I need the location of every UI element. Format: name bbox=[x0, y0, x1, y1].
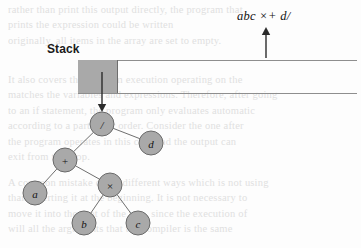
tree-node-times: × bbox=[98, 173, 122, 197]
tree-nodes-group: /+da×bc bbox=[23, 112, 163, 235]
tree-node-d: d bbox=[139, 131, 163, 155]
tree-node-label: × bbox=[106, 180, 113, 192]
tree-and-arrows-layer: /+da×bc bbox=[0, 0, 361, 248]
tree-edge-times-c bbox=[117, 195, 131, 214]
stack-to-tree-arrow-head bbox=[98, 104, 106, 112]
tree-edge-plus-a bbox=[43, 169, 57, 184]
tree-node-plus: + bbox=[53, 148, 77, 172]
expression-pointer-arrow-head bbox=[262, 27, 270, 35]
tree-node-c: c bbox=[126, 211, 150, 235]
tree-node-label: a bbox=[32, 188, 38, 200]
tree-edge-times-b bbox=[91, 195, 103, 213]
arrows-group bbox=[98, 27, 270, 112]
tree-node-label: b bbox=[81, 218, 87, 230]
tree-edge-root-d bbox=[113, 128, 140, 138]
tree-node-a: a bbox=[23, 181, 47, 205]
figure-canvas: rather than print this output directly, … bbox=[0, 0, 361, 248]
tree-node-root: / bbox=[90, 112, 114, 136]
tree-edge-plus-times bbox=[75, 166, 99, 179]
tree-node-b: b bbox=[72, 211, 96, 235]
tree-node-label: d bbox=[148, 138, 154, 150]
tree-edge-root-plus bbox=[74, 132, 94, 151]
tree-edges-group bbox=[43, 128, 140, 213]
tree-node-label: + bbox=[61, 155, 68, 167]
tree-node-label: c bbox=[136, 218, 141, 230]
